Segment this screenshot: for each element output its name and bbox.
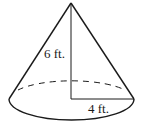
height-label: 6 ft. <box>44 46 65 61</box>
base-front-arc <box>9 99 134 120</box>
cone-diagram: 6 ft. 4 ft. <box>0 0 141 127</box>
radius-label: 4 ft. <box>88 101 109 116</box>
cone-right-slant <box>71 3 134 99</box>
